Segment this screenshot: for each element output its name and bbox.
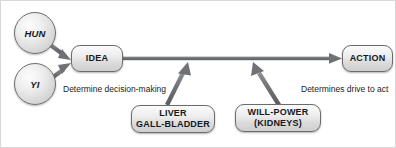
arrow-willpower-to-flow	[251, 62, 279, 105]
arrow-liver-to-flow	[167, 62, 191, 105]
node-liver-label-line1: LIVER	[159, 108, 187, 119]
node-idea[interactable]: IDEA	[71, 45, 123, 72]
caption-determine-decision-making: Determine decision-making	[63, 84, 166, 94]
node-idea-label: IDEA	[86, 53, 108, 64]
arrow-hun-to-idea	[49, 44, 71, 60]
node-will-power-kidneys[interactable]: WILL-POWER (KIDNEYS)	[235, 104, 321, 132]
node-hun[interactable]: HUN	[14, 12, 56, 54]
caption-determines-drive-to-act: Determines drive to act	[301, 84, 388, 94]
node-liver-gall-bladder[interactable]: LIVER GALL-BLADDER	[131, 105, 215, 133]
node-liver-label-line2: GALL-BLADDER	[136, 119, 210, 130]
node-action-label: ACTION	[350, 53, 386, 64]
node-willpower-label-line1: WILL-POWER	[248, 107, 309, 118]
arrow-idea-to-action	[123, 53, 342, 64]
diagram-canvas: HUN YI IDEA ACTION LIVER GALL-BLADDER WI…	[0, 0, 396, 148]
node-hun-label: HUN	[24, 28, 45, 39]
node-willpower-label-line2: (KIDNEYS)	[254, 118, 302, 129]
node-yi[interactable]: YI	[14, 63, 56, 105]
node-yi-label: YI	[30, 79, 39, 90]
node-action[interactable]: ACTION	[342, 45, 393, 72]
